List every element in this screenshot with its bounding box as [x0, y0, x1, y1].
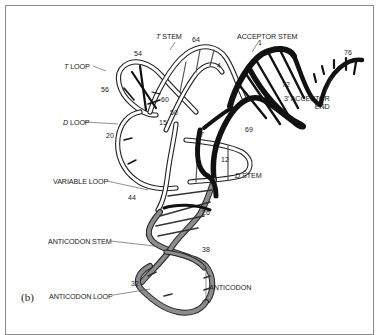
- number-64: 64: [192, 36, 200, 43]
- anticodon-loop-label: ANTICODON LOOP: [49, 293, 113, 300]
- anticodon-stem-label: ANTICODON STEM: [48, 238, 112, 245]
- number-60: 60: [161, 96, 169, 103]
- d-loop-text: LOOP: [68, 118, 89, 127]
- number-1: 1: [258, 39, 262, 46]
- t-stem-text: STEM: [160, 32, 181, 41]
- number-26: 26: [202, 209, 210, 216]
- variable-loop-label: VARIABLE LOOP: [53, 178, 108, 185]
- number-4: 4: [217, 62, 221, 69]
- number-38: 38: [202, 246, 210, 253]
- acceptor-end-line2: END: [284, 103, 330, 110]
- number-72: 72: [282, 81, 290, 88]
- number-50: 50: [170, 109, 178, 116]
- panel-label: (b): [21, 291, 34, 303]
- d-loop-label: D LOOP: [63, 119, 90, 126]
- anticodon-label: ANTICODON: [209, 284, 251, 291]
- number-32: 32: [131, 280, 139, 287]
- acceptor-end-label: 3' ACCEPTOR END: [284, 95, 330, 110]
- acceptor-end-line1: 3' ACCEPTOR: [284, 95, 330, 102]
- acceptor-stem-label: ACCEPTOR STEM: [237, 33, 297, 40]
- number-12: 12: [221, 156, 229, 163]
- number-56: 56: [101, 86, 109, 93]
- number-76: 76: [344, 49, 352, 56]
- d-stem-text: STEM: [240, 171, 261, 180]
- d-stem-label: D STEM: [235, 172, 262, 179]
- number-69: 69: [245, 126, 253, 133]
- t-loop-label: T LOOP: [64, 63, 90, 70]
- number-15: 15: [159, 119, 167, 126]
- t-stem-label: T STEM: [156, 33, 182, 40]
- number-44: 44: [128, 194, 136, 201]
- t-loop-text: LOOP: [68, 62, 89, 71]
- number-20: 20: [106, 132, 114, 139]
- number-54: 54: [134, 50, 142, 57]
- number-7: 7: [200, 131, 204, 138]
